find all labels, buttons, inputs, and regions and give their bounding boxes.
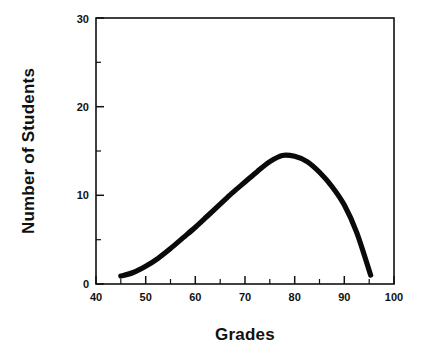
- x-tick-label-40: 40: [90, 291, 102, 303]
- y-tick-labels: 0 10 20 30: [77, 13, 89, 291]
- x-axis-title: Grades: [215, 325, 275, 344]
- y-tick-label-10: 10: [77, 189, 89, 201]
- x-tick-label-90: 90: [338, 291, 350, 303]
- x-tick-label-80: 80: [289, 291, 301, 303]
- plot-background: [96, 18, 394, 284]
- x-tick-label-50: 50: [140, 291, 152, 303]
- chart-canvas: 0 10 20 30 40 50 60 70 80 90 100 Grades …: [0, 0, 422, 355]
- y-axis-title: Number of Students: [19, 68, 38, 234]
- y-tick-label-20: 20: [77, 101, 89, 113]
- x-tick-label-100: 100: [385, 291, 403, 303]
- x-tick-label-60: 60: [189, 291, 201, 303]
- chart-figure: 0 10 20 30 40 50 60 70 80 90 100 Grades …: [0, 0, 422, 355]
- x-tick-label-70: 70: [239, 291, 251, 303]
- y-tick-label-0: 0: [83, 278, 89, 290]
- x-tick-labels: 40 50 60 70 80 90 100: [90, 291, 403, 303]
- y-tick-label-30: 30: [77, 13, 89, 25]
